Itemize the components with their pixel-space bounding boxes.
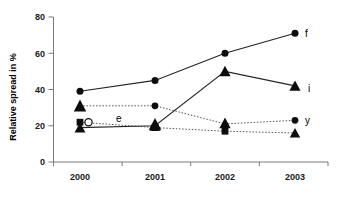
y-tick-label-80: 80 [35,12,45,22]
x-tick-label-2003: 2003 [285,172,305,182]
series-markers-e [74,100,299,130]
x-tick-label-2000: 2000 [70,172,90,182]
x-tick-label-2002: 2002 [215,172,235,182]
series-line-i [80,71,295,127]
y-axis-label: Relative spread in % [8,53,18,141]
x-axis [54,162,329,166]
x-tick-label-2001: 2001 [145,172,165,182]
series-label-i: i [308,83,310,94]
y-axis [49,17,54,162]
y-tick-label-20: 20 [35,121,45,131]
series-label-e: e [116,113,122,124]
series-markers-f [77,30,299,95]
series-label-f: f [305,28,308,39]
series-markers-i [75,66,301,133]
y-tick-label-40: 40 [35,85,45,95]
y-tick-label-0: 0 [40,157,45,167]
series-line-f [80,33,295,91]
series-label-y: y [305,115,310,126]
series-line-e [80,106,295,124]
chart-figure: 0 20 40 60 80 Relative spread in % 2000 … [0,0,338,198]
line-chart-plot: 0 20 40 60 80 Relative spread in % 2000 … [0,0,338,198]
y-tick-label-60: 60 [35,49,45,59]
series-line-y [80,122,295,133]
